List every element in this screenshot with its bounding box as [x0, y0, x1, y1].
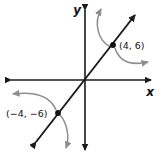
point-4-6-dot [110, 42, 116, 48]
coordinate-plane-figure: (4, 6) (−4, −6) y x [0, 0, 163, 162]
x-axis-label: x [145, 85, 155, 99]
y-axis-label: y [73, 3, 82, 17]
rotation-arrow-up-icon [97, 9, 111, 47]
point-neg4-neg6-dot [55, 110, 61, 116]
point-neg4-neg6-label: (−4, −6) [6, 108, 47, 119]
graph-canvas: (4, 6) (−4, −6) y x [0, 0, 163, 162]
rotation-arrow-down-icon [60, 115, 68, 148]
point-4-6-label: (4, 6) [119, 40, 145, 51]
